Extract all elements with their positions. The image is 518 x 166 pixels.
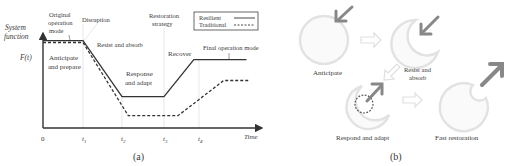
- outgoing-arrow-icon: [367, 84, 382, 101]
- annotation-anticipate-2: and prepare: [48, 63, 81, 71]
- tick-label-t3: t3: [163, 135, 168, 144]
- annotation-disruption: Disruption: [82, 16, 111, 23]
- annotation-original-3: mode: [49, 27, 64, 34]
- annotation-restoration-2: strategy: [152, 20, 173, 27]
- flow-arrow-icon: [361, 33, 381, 47]
- resist-shape: [391, 20, 438, 68]
- guide-disruption: [83, 20, 100, 42]
- y-value-label: F(t): [19, 53, 32, 62]
- annotation-resist: Resist and absorb: [97, 41, 143, 48]
- impact-arrow-icon: [421, 17, 438, 34]
- x-axis-label: Time: [244, 133, 258, 141]
- figure: 0 t1 t2 t3 t4 Time System function F(t) …: [0, 0, 518, 166]
- annotation-recover: Recover: [168, 50, 192, 58]
- y-axis-label-line1: System: [5, 23, 26, 32]
- label-respond: Respond and adapt: [336, 134, 389, 142]
- legend: Resilient Traditional: [194, 12, 258, 30]
- annotation-response-2: and adapt: [125, 79, 152, 87]
- panel-b: Anticipate Resist and absorb Respond and…: [300, 7, 502, 163]
- annotation-final-mode: Final operation mode: [203, 44, 259, 51]
- tick-label-0: 0: [41, 135, 45, 143]
- label-resist-1: Resist and: [404, 66, 432, 73]
- tick-label-t4: t4: [198, 135, 203, 144]
- restoration-shape: [440, 83, 488, 131]
- flow-arrow-diagonal-icon: [384, 64, 400, 80]
- label-anticipate: Anticipate: [313, 69, 342, 77]
- annotation-original-pointer: [69, 35, 70, 40]
- label-resist-2: absorb: [409, 74, 426, 81]
- recovery-arrow-icon: [482, 64, 502, 85]
- tick-label-t1: t1: [82, 135, 86, 144]
- flow-arrow-icon-2: [403, 93, 422, 107]
- panel-a: 0 t1 t2 t3 t4 Time System function F(t) …: [4, 11, 262, 163]
- annotation-original-1: Original: [49, 11, 71, 18]
- incoming-arrow-icon: [336, 7, 352, 21]
- annotation-restoration-1: Restoration: [149, 12, 180, 19]
- annotation-anticipate-1: Anticipate: [49, 54, 78, 62]
- y-axis-label-line2: function: [4, 32, 29, 41]
- legend-label-resilient: Resilient: [199, 14, 221, 21]
- tick-label-t2: t2: [121, 135, 126, 144]
- annotation-response-1: Response: [126, 70, 153, 78]
- caption-b: (b): [390, 151, 402, 163]
- legend-label-traditional: Traditional: [199, 21, 227, 28]
- label-restoration: Fast restoration: [435, 134, 479, 142]
- anticipate-shape: [300, 16, 348, 64]
- annotation-original-2: operation: [48, 19, 73, 26]
- caption-a: (a): [133, 151, 144, 163]
